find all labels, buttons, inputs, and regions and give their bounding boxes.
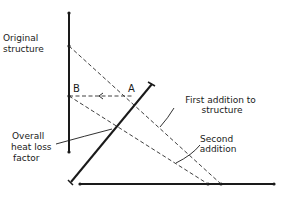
overall-heat-loss-factor-label: Overall heat loss factor <box>11 131 54 163</box>
first-addition-dashed-line <box>69 46 221 184</box>
first-addition-pointer <box>160 108 174 127</box>
point-b-marker <box>67 94 70 97</box>
point-b-label: B <box>73 83 80 94</box>
second-addition-label: Second addition <box>200 134 237 154</box>
original-structure-label: Original structure <box>3 33 44 54</box>
horizontal-axis-right-point <box>272 182 275 185</box>
second-addition-pointer <box>176 145 200 163</box>
horizontal-axis-left-point <box>78 182 81 185</box>
diagonal-scale <box>71 84 152 182</box>
heat-loss-nomogram: B A Original structure First addition to… <box>0 0 285 197</box>
vertical-axis-top-point <box>67 11 70 14</box>
point-a-label: A <box>128 83 135 94</box>
vertical-axis-bottom-point <box>67 150 70 153</box>
first-addition-label: First addition to structure <box>185 95 258 115</box>
